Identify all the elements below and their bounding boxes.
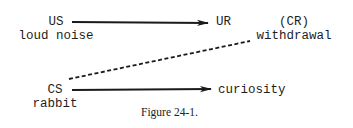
- us-label: US: [14, 15, 98, 29]
- curiosity-label: curiosity: [218, 83, 286, 97]
- us-description: loud noise: [14, 29, 98, 43]
- cs-description: rabbit: [25, 97, 85, 111]
- cs-node: CS rabbit: [25, 83, 85, 111]
- us-node: US loud noise: [14, 15, 98, 43]
- ur-node: UR: [216, 15, 231, 29]
- ur-label: UR: [216, 15, 231, 29]
- curiosity-node: curiosity: [218, 83, 286, 97]
- dashed-cs-to-cr: [69, 41, 250, 79]
- cs-label: CS: [25, 83, 85, 97]
- cr-label: (CR): [252, 15, 336, 29]
- cr-description: withdrawal: [252, 29, 336, 43]
- arrow-cs-to-curiosity: [72, 89, 211, 90]
- cr-node: (CR) withdrawal: [252, 15, 336, 43]
- figure-caption: Figure 24-1.: [141, 106, 198, 119]
